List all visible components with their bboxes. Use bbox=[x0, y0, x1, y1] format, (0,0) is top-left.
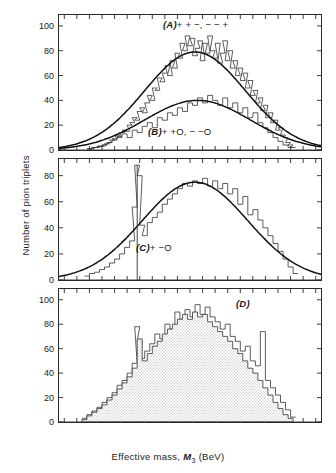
x-axis-title-prefix: Effective mass, bbox=[112, 451, 184, 462]
y-tick-label: 20 bbox=[44, 393, 54, 403]
y-tick-label: 0 bbox=[49, 145, 54, 155]
y-tick-label: 80 bbox=[44, 46, 54, 56]
y-tick-label: 100 bbox=[39, 21, 54, 31]
panel-d-frame bbox=[58, 288, 322, 423]
y-tick-label: 60 bbox=[44, 344, 54, 354]
panel-d: 020406080100 (D) bbox=[58, 288, 322, 423]
y-tick-label: 40 bbox=[44, 368, 54, 378]
y-tick-label: 60 bbox=[44, 71, 54, 81]
panel-d-label: (D) bbox=[236, 298, 250, 309]
panel-b-label: (B)+ +O, − −O bbox=[148, 126, 211, 137]
panel-c-frame bbox=[58, 158, 322, 281]
y-tick-label: 20 bbox=[44, 249, 54, 259]
y-tick-label: 20 bbox=[44, 120, 54, 130]
panel-c: 020406080 (C)+ −O bbox=[58, 158, 322, 281]
y-tick-label: 0 bbox=[49, 275, 54, 285]
y-tick-label: 40 bbox=[44, 95, 54, 105]
panel-c-label: (C)+ −O bbox=[136, 242, 172, 253]
figure-root: Number of pion triplets 020406080100 (A)… bbox=[0, 0, 336, 473]
y-tick-label: 60 bbox=[44, 197, 54, 207]
panel-a: 020406080100 (A)+ + −, − − + (B)+ +O, − … bbox=[58, 14, 322, 151]
y-tick-label: 40 bbox=[44, 223, 54, 233]
y-axis-title: Number of pion triplets bbox=[20, 126, 31, 286]
y-tick-label: 80 bbox=[44, 171, 54, 181]
x-axis-title: Effective mass, M3 (BeV) bbox=[0, 451, 336, 464]
x-axis-tick-labels bbox=[0, 424, 336, 438]
x-axis-title-unit: (BeV) bbox=[196, 451, 225, 462]
y-tick-label: 100 bbox=[39, 295, 54, 305]
panel-a-label: (A)+ + −, − − + bbox=[163, 19, 228, 30]
y-tick-label: 80 bbox=[44, 319, 54, 329]
